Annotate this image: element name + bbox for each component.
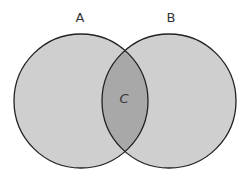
set-b-label: B xyxy=(167,10,176,25)
set-a-label: A xyxy=(76,10,85,25)
venn-diagram: A B C xyxy=(0,0,248,180)
intersection-label: C xyxy=(119,91,129,106)
